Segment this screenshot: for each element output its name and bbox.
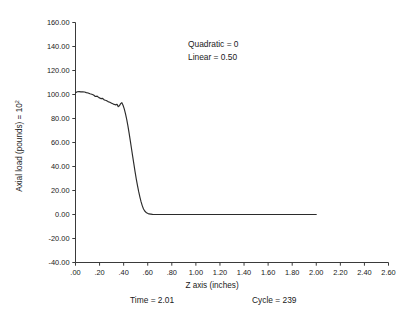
y-axis-title-exponent: 2 xyxy=(14,100,20,103)
y-tick-label: 100.00 xyxy=(47,90,70,99)
svg-text:Axial load (pounds) = 102: Axial load (pounds) = 102 xyxy=(14,100,24,192)
chart-canvas: -40.00-20.000.0020.0040.0060.0080.00100.… xyxy=(0,0,404,315)
y-tick-label: 160.00 xyxy=(47,18,70,27)
x-tick-label: 1.00 xyxy=(189,268,203,277)
footer-time-label: Time = 2.01 xyxy=(130,295,174,305)
y-tick-label: 80.00 xyxy=(51,114,70,123)
x-axis-title: Z axis (inches) xyxy=(185,281,239,290)
x-tick-label: .80 xyxy=(167,268,177,277)
y-tick-label: -40.00 xyxy=(49,258,70,267)
x-tick-label: .60 xyxy=(143,268,153,277)
x-tick-label: .20 xyxy=(94,268,104,277)
x-tick-label: 2.60 xyxy=(381,268,395,277)
y-tick-label: -20.00 xyxy=(49,234,70,243)
x-tick-label: 1.20 xyxy=(213,268,227,277)
x-tick-label: .40 xyxy=(119,268,129,277)
y-tick-label: 60.00 xyxy=(51,138,70,147)
y-tick-label: 40.00 xyxy=(51,162,70,171)
footer-cycle-label: Cycle = 239 xyxy=(252,295,297,305)
x-tick-label: 2.20 xyxy=(333,268,347,277)
chart-figure: -40.00-20.000.0020.0040.0060.0080.00100.… xyxy=(0,0,404,315)
x-tick-label: 1.40 xyxy=(237,268,251,277)
y-tick-label: 20.00 xyxy=(51,186,70,195)
x-tick-label: 2.00 xyxy=(309,268,323,277)
x-tick-label: .00 xyxy=(70,268,80,277)
annotation-quadratic: Quadratic = 0 xyxy=(188,39,239,49)
x-tick-label: 1.60 xyxy=(261,268,275,277)
y-tick-label: 0.00 xyxy=(55,210,69,219)
y-axis-title: Axial load (pounds) = 102 xyxy=(14,100,24,192)
x-tick-label: 1.80 xyxy=(285,268,299,277)
y-axis-title-base: Axial load (pounds) = 10 xyxy=(15,103,24,192)
y-tick-label: 120.00 xyxy=(47,66,70,75)
annotation-linear: Linear = 0.50 xyxy=(188,52,237,62)
y-tick-label: 140.00 xyxy=(47,42,70,51)
x-tick-label: 2.40 xyxy=(357,268,371,277)
